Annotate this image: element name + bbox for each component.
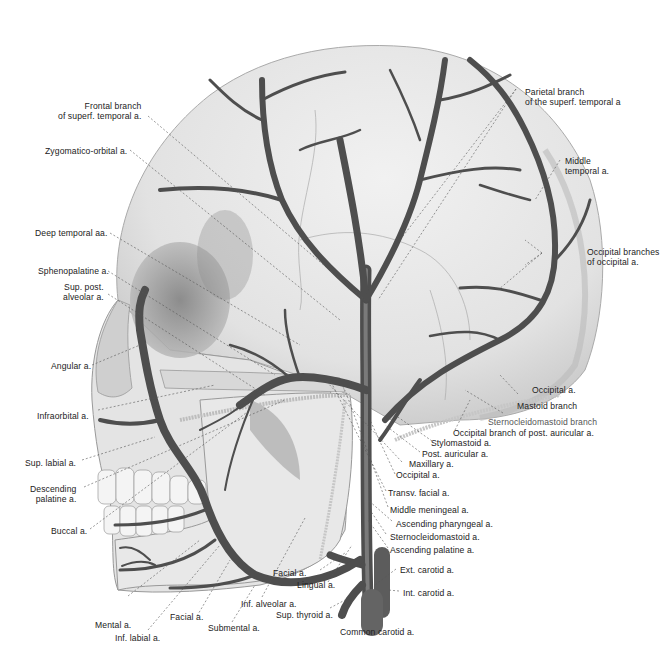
label-sternocleidomastoid-a: Sternocleidomastoid a. xyxy=(390,532,480,542)
label-mental: Mental a. xyxy=(95,620,131,630)
label-int-carotid: Int. carotid a. xyxy=(403,588,454,598)
label-occipital-branches: Occipital branches of occipital a. xyxy=(587,247,660,267)
label-common-carotid: Common carotid a. xyxy=(340,627,414,637)
label-occipital-lower: Occipital a. xyxy=(396,470,440,480)
label-inf-alveolar: Inf. alveolar a. xyxy=(241,599,297,609)
label-angular: Angular a. xyxy=(51,361,91,371)
label-occipital-upper: Occipital a. xyxy=(532,385,576,395)
label-transv-facial: Transv. facial a. xyxy=(388,488,449,498)
label-submental: Submental a. xyxy=(208,623,260,633)
label-sternocleidomastoid-branch: Sternocleidomastoid branch xyxy=(488,417,597,427)
label-deep-temporal: Deep temporal aa. xyxy=(35,228,107,238)
label-sup-post-alveolar: Sup. post. alveolar a. xyxy=(63,282,104,302)
label-facial-upper: Facial a. xyxy=(273,568,306,578)
label-buccal: Buccal a. xyxy=(51,526,87,536)
label-inf-labial: Inf. labial a. xyxy=(115,633,160,643)
anatomical-figure: Frontal branch of superf. temporal a. Zy… xyxy=(0,0,660,669)
label-parietal-branch: Parietal branch of the superf. temporal … xyxy=(525,87,621,107)
label-maxillary: Maxillary a. xyxy=(409,459,454,469)
label-occipital-branch-post-auricular: Occipital branch of post. auricular a. xyxy=(453,428,594,438)
label-ext-carotid: Ext. carotid a. xyxy=(400,565,454,575)
label-post-auricular: Post. auricular a. xyxy=(422,449,488,459)
label-infraorbital: Infraorbital a. xyxy=(37,411,89,421)
label-sphenopalatine: Sphenopalatine a. xyxy=(38,266,109,276)
label-stylomastoid: Stylomastoid a. xyxy=(431,438,491,448)
label-middle-meningeal: Middle meningeal a. xyxy=(390,505,469,515)
label-ascending-palatine: Ascending palatine a. xyxy=(390,545,474,555)
label-sup-labial: Sup. labial a. xyxy=(25,458,76,468)
label-sup-thyroid: Sup. thyroid a. xyxy=(276,610,333,620)
label-ascending-pharyngeal: Ascending pharyngeal a. xyxy=(396,519,493,529)
label-frontal-branch: Frontal branch of superf. temporal a. xyxy=(58,101,141,121)
label-mastoid-branch: Mastoid branch xyxy=(517,401,577,411)
label-middle-temporal: Middle temporal a. xyxy=(565,156,609,176)
label-lingual: Lingual a. xyxy=(297,580,335,590)
label-facial-lower: Facial a. xyxy=(170,612,203,622)
label-zygomatico-orbital: Zygomatico-orbital a. xyxy=(45,146,127,156)
label-descending-palatine: Descending palatine a. xyxy=(30,484,76,504)
